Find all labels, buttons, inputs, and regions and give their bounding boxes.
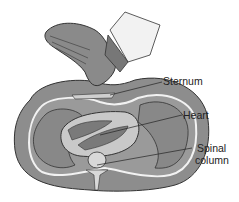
heart-label: Heart [183, 110, 209, 121]
spinal-label-line2: column [195, 155, 229, 166]
chest-cross-section-illustration [0, 0, 239, 202]
vertebra [88, 152, 106, 168]
sternum-label: Sternum [163, 76, 203, 87]
spinal-label-line1: Spinal [197, 143, 226, 154]
